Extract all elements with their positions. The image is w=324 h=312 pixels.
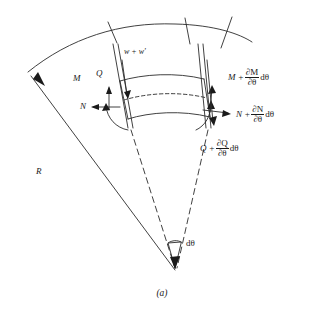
- shear-right-base: Q +: [200, 144, 215, 153]
- shear-right-differential: dθ: [230, 144, 239, 153]
- label-shear-right: Q + ∂Q ∂θ dθ: [200, 139, 239, 159]
- dashed-radial-left: [131, 130, 175, 268]
- element-outer-arc: [120, 75, 204, 81]
- moment-right-denominator: ∂θ: [245, 78, 259, 87]
- normal-right-fraction: ∂N ∂θ: [251, 105, 264, 125]
- label-normal-right: N + ∂N ∂θ dθ: [236, 105, 274, 125]
- moment-right-differential: dθ: [260, 73, 269, 82]
- moment-right-base: M +: [228, 73, 244, 82]
- label-moment-right: M + ∂M ∂θ dθ: [228, 68, 269, 88]
- normal-right-base: N +: [236, 110, 250, 119]
- radial-guide-right-upper: [185, 18, 190, 44]
- element-inner-arc: [128, 113, 210, 119]
- label-moment-left: M: [73, 74, 81, 83]
- normal-right-differential: dθ: [265, 110, 274, 119]
- shear-right-denominator: ∂θ: [216, 149, 229, 158]
- curved-beam-diagram: [0, 0, 324, 312]
- radius-line-left: [31, 76, 175, 270]
- label-shear-left: Q: [96, 69, 103, 78]
- normal-right-denominator: ∂θ: [251, 115, 264, 124]
- shear-left-inner-shaft: [122, 60, 127, 95]
- radius-arrowhead: [33, 72, 45, 86]
- shear-left-inner-arrowhead: [124, 90, 131, 99]
- radial-guide-left-upper: [108, 22, 117, 43]
- shear-right-fraction: ∂Q ∂θ: [216, 139, 229, 159]
- label-normal-left: N: [80, 102, 86, 111]
- label-deflection: w + w': [124, 48, 146, 56]
- normal-left-arrowhead: [91, 104, 99, 110]
- label-angle-increment: dθ: [186, 239, 195, 248]
- label-radius: R: [36, 167, 42, 176]
- normal-right-arrowhead: [222, 110, 231, 117]
- element-midline-arc: [124, 94, 207, 100]
- figure-caption: (a): [0, 288, 324, 298]
- shear-left-arrowhead: [106, 86, 112, 94]
- moment-right-fraction: ∂M ∂θ: [245, 68, 259, 88]
